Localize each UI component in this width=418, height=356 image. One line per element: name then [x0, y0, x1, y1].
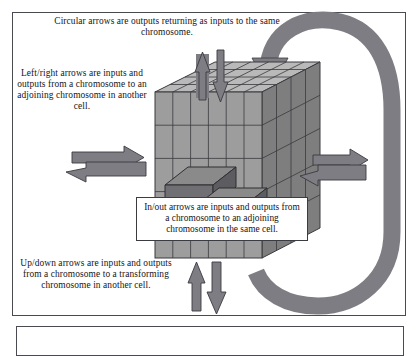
arrow-up-icon: [195, 52, 210, 100]
arrow-down-icon: [207, 262, 226, 314]
arrow-left-icon: [66, 162, 146, 182]
caption-in-out-arrows: In/out arrows are inputs and outputs fro…: [136, 197, 308, 241]
up-down-arrows-bottom: [188, 262, 226, 314]
caption-circular-arrows: Circular arrows are outputs returning as…: [52, 16, 282, 38]
arrow-up-icon: [188, 262, 205, 311]
caption-up-down-arrows: Up/down arrows are inputs and outputs fr…: [16, 258, 176, 291]
left-right-arrows-west: [66, 146, 146, 182]
lower-figure-border: [16, 326, 404, 356]
caption-left-right-arrows: Left/right arrows are inputs and outputs…: [16, 68, 148, 112]
